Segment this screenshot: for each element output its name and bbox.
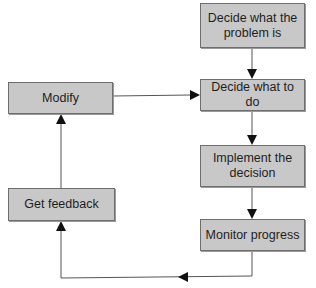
- node-implement: Implement the decision: [200, 145, 305, 187]
- arrowhead-up-icon: [56, 221, 66, 231]
- arrowhead-down-icon: [247, 209, 257, 219]
- edge-implement-to-monitor: [247, 187, 257, 219]
- node-define-problem: Decide what the problem is: [200, 3, 305, 48]
- node-label: Implement the decision: [205, 151, 300, 181]
- arrowhead-right-icon: [190, 90, 200, 100]
- node-decide-action: Decide what to do: [200, 79, 305, 111]
- node-label: Get feedback: [24, 197, 98, 212]
- edge-decide-action-to-implement: [247, 111, 257, 145]
- edge-feedback-to-modify: [56, 114, 66, 188]
- arrowhead-left-icon: [178, 272, 188, 282]
- node-label: Decide what to do: [205, 80, 300, 110]
- arrowhead-up-icon: [56, 114, 66, 124]
- arrowhead-down-icon: [247, 69, 257, 79]
- node-feedback: Get feedback: [8, 188, 115, 221]
- edge-modify-to-decide-action: [113, 90, 200, 100]
- node-label: Decide what the problem is: [205, 11, 300, 41]
- edge-define-problem-to-decide-action: [247, 48, 257, 79]
- flowchart-canvas: Decide what the problem is Decide what t…: [0, 0, 316, 288]
- node-modify: Modify: [8, 82, 113, 114]
- arrowhead-down-icon: [247, 135, 257, 145]
- node-monitor: Monitor progress: [200, 219, 305, 251]
- node-label: Modify: [42, 91, 79, 106]
- node-label: Monitor progress: [206, 228, 300, 243]
